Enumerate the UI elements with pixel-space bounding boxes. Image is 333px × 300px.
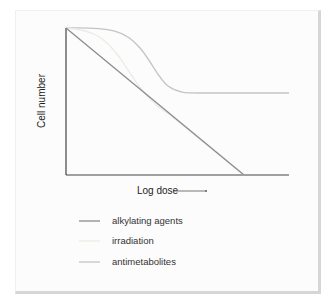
series-alkylating-agents [66,28,244,175]
legend-label-alkylating: alkylating agents [112,215,183,226]
arrow-head-icon [205,190,207,192]
x-axis-label: Log dose [137,185,179,196]
chart-svg: Cell number Log dose alkylating agents i… [0,0,333,300]
legend-label-irradiation: irradiation [112,235,154,246]
legend: alkylating agents irradiation antimetabo… [79,215,183,267]
y-axis-label: Cell number [36,73,47,128]
legend-label-antimetabolites: antimetabolites [112,256,176,267]
